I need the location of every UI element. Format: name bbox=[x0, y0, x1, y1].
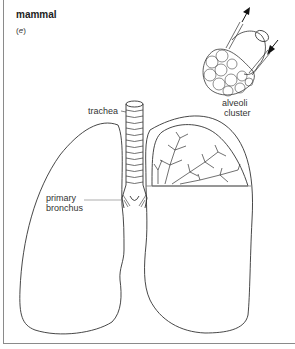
lung-diagram bbox=[0, 0, 295, 349]
left-lung-outline bbox=[20, 123, 124, 334]
alveoli-cluster bbox=[203, 22, 271, 96]
right-lung-outline bbox=[145, 116, 253, 333]
label-bronchus: bronchus bbox=[46, 203, 83, 213]
label-alveoli: alveoli bbox=[222, 98, 248, 108]
trachea bbox=[122, 101, 147, 208]
label-trachea: trachea bbox=[88, 106, 118, 116]
label-cluster: cluster bbox=[224, 108, 251, 118]
label-primary: primary bbox=[46, 193, 76, 203]
trachea-leader bbox=[121, 111, 126, 112]
bronchial-tree bbox=[154, 132, 240, 184]
arrow-in-icon bbox=[267, 45, 275, 55]
